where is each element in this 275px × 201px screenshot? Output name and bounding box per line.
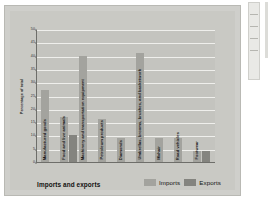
side-panel-strip <box>248 2 260 80</box>
plot-area: Manufactured goodsFood and live animalsM… <box>36 30 215 163</box>
bar-group: Footwear <box>193 30 212 162</box>
bar-group: Diamonds <box>117 30 136 162</box>
bar-imports[interactable] <box>174 138 182 162</box>
bar-imports[interactable] <box>60 117 68 162</box>
bar-group: Petroleum products <box>98 30 117 162</box>
legend-swatch-exports <box>184 179 196 186</box>
legend-item-imports: Imports <box>144 179 180 186</box>
bar-imports[interactable] <box>155 138 163 162</box>
side-panel-divider <box>250 14 258 15</box>
bar-groups: Manufactured goodsFood and live animalsM… <box>37 30 215 162</box>
bar-group: Road vehicles <box>174 30 193 162</box>
x-axis-title: Imports and exports <box>37 181 100 188</box>
page-edge-shadow <box>265 2 268 58</box>
bar-exports[interactable] <box>69 135 77 162</box>
bar-exports[interactable] <box>202 151 210 162</box>
chart-legend: Imports Exports <box>144 179 221 186</box>
chart-card-inner: Percentage of total 05101520253035404550… <box>10 11 235 190</box>
screenshot-root: Percentage of total 05101520253035404550… <box>0 0 275 201</box>
legend-item-exports: Exports <box>184 179 221 186</box>
side-panel-divider <box>250 50 258 51</box>
bar-imports[interactable] <box>41 90 49 162</box>
legend-swatch-imports <box>144 179 156 186</box>
bar-imports[interactable] <box>193 151 201 162</box>
bar-imports[interactable] <box>117 138 125 162</box>
bar-imports[interactable] <box>98 119 106 162</box>
bar-group: Mohair <box>155 30 174 162</box>
y-axis-ticks: 05101520253035404550 <box>24 30 35 163</box>
bar-group: Food and live animals <box>60 30 79 162</box>
side-panel-divider <box>250 26 258 27</box>
x-axis-line <box>37 162 215 163</box>
bar-imports[interactable] <box>136 53 144 162</box>
side-panel-divider <box>250 38 258 39</box>
legend-label-exports: Exports <box>199 179 221 186</box>
bar-group: Machinery and transportation equipment <box>79 30 98 162</box>
chart-card: Percentage of total 05101520253035404550… <box>4 5 241 196</box>
bar-group: Umbrellas, brooms, brushes, and basketwo… <box>136 30 155 162</box>
legend-label-imports: Imports <box>159 179 180 186</box>
bar-imports[interactable] <box>79 56 87 162</box>
bar-group: Manufactured goods <box>41 30 60 162</box>
